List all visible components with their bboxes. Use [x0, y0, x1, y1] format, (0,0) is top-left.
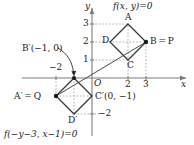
tick-label-y-1: 1 [83, 55, 89, 64]
figure-vector-layer [0, 0, 194, 145]
vertex-label-B-P: B = P [150, 37, 174, 46]
tick-label-x-neg2: −2 [49, 63, 62, 72]
tick-label-y-3: 3 [83, 19, 89, 28]
vertex-label-C: C [127, 61, 134, 70]
equation-label-bottom: f(−y−3, x−1)=0 [4, 130, 78, 139]
math-figure-canvas: f(x, y)=0 f(−y−3, x−1)=0 y x O −2 2 3 3 … [0, 0, 194, 145]
tick-label-y-2: 2 [83, 37, 89, 46]
vertex-label-B-prime: B′(−1, 0) [22, 44, 62, 53]
callout-arrowhead-B-prime [71, 71, 76, 77]
vertex-label-A-prime-Q: A′ = Q [14, 92, 41, 101]
y-axis-label: y [85, 2, 90, 11]
vertex-dot-B-P [144, 40, 148, 44]
tick-label-y-neg2: −2 [98, 109, 111, 118]
tick-label-x-2: 2 [125, 80, 131, 89]
vertex-label-D-prime: D′ [68, 116, 77, 125]
vertex-label-A: A [125, 13, 132, 22]
equation-label-top: f(x, y)=0 [113, 2, 153, 11]
y-axis-arrowhead [90, 8, 95, 14]
vertex-dot-B-prime [72, 76, 76, 80]
vertex-dot-A-prime-Q [54, 94, 58, 98]
vertex-label-D: D [102, 36, 109, 45]
vertex-label-C-prime: C′(0, −1) [95, 92, 136, 101]
origin-label: O [94, 79, 101, 88]
x-axis-label: x [181, 80, 186, 89]
tick-label-x-3: 3 [143, 80, 149, 89]
